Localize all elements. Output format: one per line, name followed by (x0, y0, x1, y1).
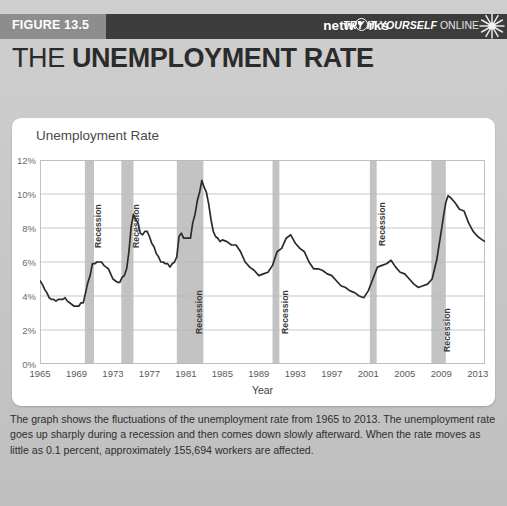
y-axis-tick-label: 12% (17, 155, 36, 166)
recession-band-label: Recession (442, 308, 452, 352)
page-title: THE UNEMPLOYMENT RATE (12, 45, 472, 72)
recession-band-label: Recession (377, 202, 387, 246)
figure-label: FIGURE 13.5 (12, 18, 89, 32)
recession-band-label: Recession (93, 204, 103, 248)
plot-area: RecessionRecessionRecessionRecessionRece… (40, 160, 485, 364)
x-axis-tick-label: 2005 (394, 368, 415, 379)
recession-band-label: Recession (280, 290, 290, 334)
x-axis-tick-label: 1993 (285, 368, 306, 379)
online-label: ONLINE (440, 19, 479, 31)
x-axis-tick-label: 1977 (139, 368, 160, 379)
try-it-yourself-online[interactable]: TRY IT YOURSELF ONLINE (343, 19, 479, 31)
figure-caption: The graph shows the fluctuations of the … (10, 412, 496, 458)
x-axis-tick-label: 1981 (175, 368, 196, 379)
try-it-yourself-label: TRY IT YOURSELF (343, 19, 437, 31)
y-axis-tick-label: 8% (22, 223, 36, 234)
y-axis-tick-label: 10% (17, 189, 36, 200)
page-title-bold: UNEMPLOYMENT RATE (72, 43, 374, 73)
x-axis-tick-label: 1969 (66, 368, 87, 379)
figure-page: FIGURE 13.5 netwrks TRY IT YOURSELF ONLI… (0, 0, 507, 506)
x-axis-tick-label: 2009 (431, 368, 452, 379)
sunburst-icon (479, 13, 505, 40)
unemployment-line-chart (40, 160, 485, 364)
x-axis-tick-label: 2013 (467, 368, 488, 379)
y-axis-tick-label: 4% (22, 291, 36, 302)
x-axis-tick-label: 1985 (212, 368, 233, 379)
recession-band-label: Recession (131, 204, 141, 248)
x-axis-tick-label: 2001 (358, 368, 379, 379)
y-axis-tick-label: 6% (22, 257, 36, 268)
chart-card: Unemployment Rate RecessionRecessionRece… (12, 118, 495, 406)
recession-band-label: Recession (194, 290, 204, 334)
chart-title: Unemployment Rate (36, 128, 159, 143)
y-axis-tick-label: 2% (22, 325, 36, 336)
x-axis-tick-label: 1965 (29, 368, 50, 379)
x-axis-tick-label: 1973 (102, 368, 123, 379)
x-axis-tick-label: 1997 (321, 368, 342, 379)
x-axis-tick-label: 1989 (248, 368, 269, 379)
x-axis-title: Year (40, 384, 485, 396)
page-title-thin: THE (12, 43, 72, 73)
